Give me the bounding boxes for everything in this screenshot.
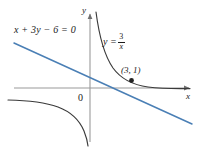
- point-coordinate-label: (3, 1): [121, 66, 141, 75]
- curve-equation-label: y = 3 x: [103, 33, 125, 51]
- origin-label: 0: [78, 93, 83, 103]
- fraction-three-over-x: 3 x: [118, 33, 125, 51]
- x-axis-label: x: [186, 92, 190, 101]
- fraction-numerator: 3: [118, 33, 124, 41]
- line-equation-label: x + 3y − 6 = 0: [14, 25, 76, 35]
- curve-equation-prefix: y =: [103, 37, 117, 47]
- point-marker: [129, 78, 134, 83]
- graph-canvas: [0, 0, 198, 148]
- fraction-denominator: x: [118, 43, 124, 51]
- y-axis-label: y: [82, 6, 86, 15]
- tangent-line: [14, 43, 192, 124]
- graph-figure: x + 3y − 6 = 0 y = 3 x (3, 1) 0 y x: [0, 0, 198, 148]
- curve-branch-lower: [8, 100, 88, 146]
